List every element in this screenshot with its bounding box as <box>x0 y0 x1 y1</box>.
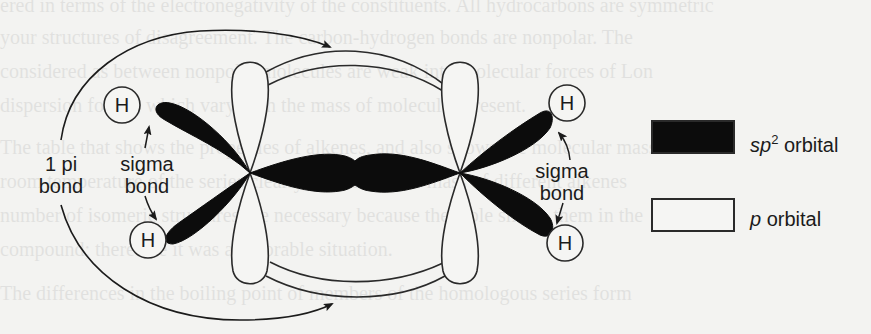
sigma-bond-label-left: sigma bond <box>116 153 178 197</box>
legend-swatch-sp2 <box>651 120 735 154</box>
sigma-arrow-right-up <box>559 133 570 160</box>
legend-label-sp2: sp2 orbital <box>750 129 838 156</box>
pi-bond-label: 1 pi bond <box>30 153 92 197</box>
hydrogen-atom-bottom-left: H <box>130 222 166 258</box>
legend-label-sp2-suffix: orbital <box>778 134 838 156</box>
svg-text:H: H <box>560 92 574 114</box>
sigma-bond-label-right-line2: bond <box>531 182 593 204</box>
hydrogen-atom-bottom-right: H <box>547 225 583 261</box>
legend-label-p: p orbital <box>750 208 821 230</box>
sigma-arrow-right-down <box>557 203 563 223</box>
sigma-arrow-left-down <box>145 196 156 219</box>
pi-bond-label-line1: 1 pi <box>30 153 92 175</box>
legend-label-sp2-prefix: sp <box>750 134 771 156</box>
hydrogen-atom-top-right: H <box>549 85 585 121</box>
svg-text:H: H <box>141 229 155 251</box>
svg-text:H: H <box>115 94 129 116</box>
pi-bond-label-line2: bond <box>30 175 92 197</box>
legend-label-p-suffix: orbital <box>761 208 821 230</box>
svg-text:H: H <box>558 232 572 254</box>
sp2-orbital-carbon-carbon-sigma <box>250 154 460 192</box>
legend-label-p-prefix: p <box>750 208 761 230</box>
legend-swatch-p <box>651 198 735 232</box>
sigma-bond-label-left-line2: bond <box>116 175 178 197</box>
pi-bond-band-top <box>266 51 446 91</box>
hydrogen-atom-top-left: H <box>104 87 140 123</box>
sigma-bond-label-right-line1: sigma <box>531 160 593 182</box>
sigma-bond-label-left-line1: sigma <box>116 153 178 175</box>
sigma-arrow-left-up <box>145 127 149 148</box>
sigma-bond-label-right: sigma bond <box>531 160 593 204</box>
pi-bond-band-bottom <box>266 262 445 297</box>
